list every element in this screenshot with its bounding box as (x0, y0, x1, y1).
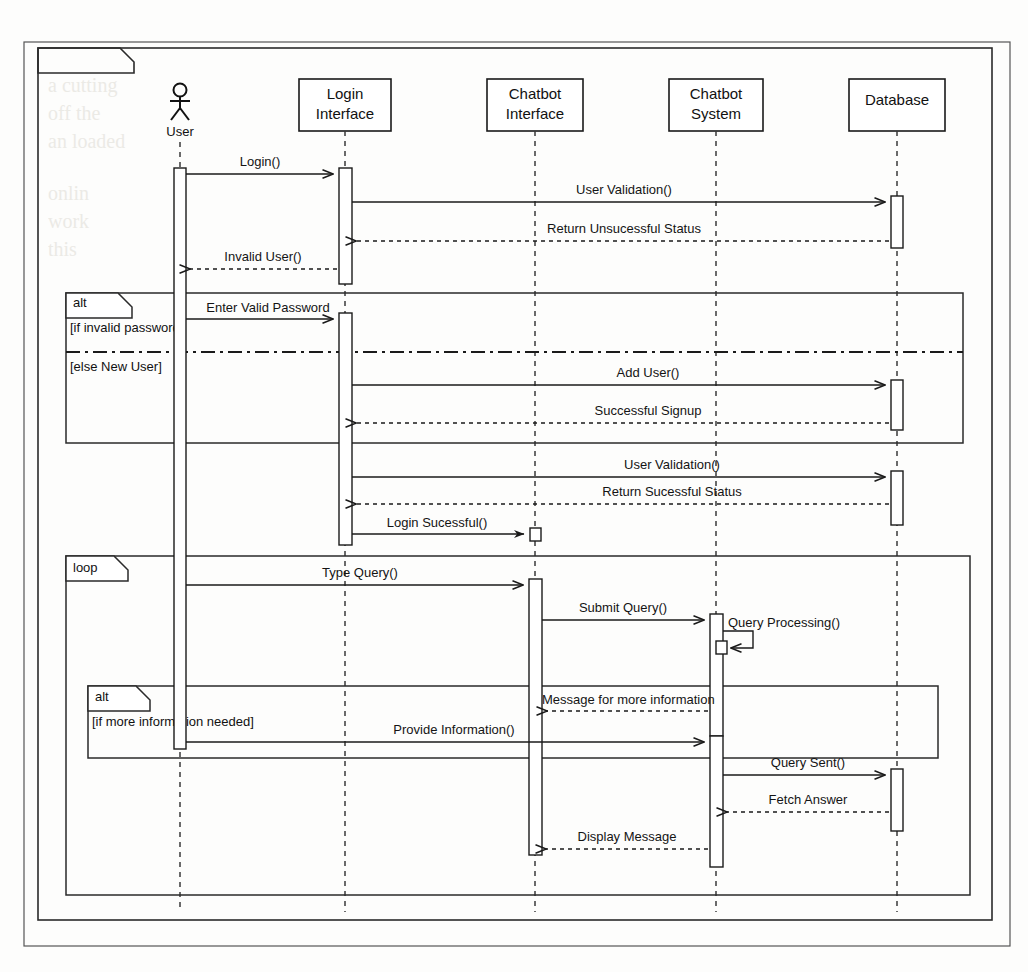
svg-text:onlin: onlin (48, 182, 89, 204)
message-label-display-message: Display Message (578, 829, 677, 844)
message-enter-valid-password[interactable]: Enter Valid Password (186, 300, 333, 319)
message-label-invalid-user: Invalid User() (224, 249, 301, 264)
message-label-return-unsuccessful-status: Return Unsucessful Status (547, 221, 701, 236)
svg-text:off the: off the (48, 102, 101, 124)
message-invalid-user[interactable]: Invalid User() (190, 249, 337, 269)
sequence-diagram-canvas: a cutting off the an loaded onlin work t… (0, 0, 1028, 972)
fragment-guard-else-new-user: [else New User] (70, 359, 162, 374)
svg-text:this: this (48, 238, 77, 260)
svg-text:an loaded: an loaded (48, 130, 125, 152)
message-label-return-successful-status: Return Sucessful Status (602, 484, 742, 499)
message-display-message[interactable]: Display Message (546, 829, 708, 849)
message-label-submit-query: Submit Query() (579, 600, 667, 615)
activation-database-4 (891, 769, 903, 831)
message-login[interactable]: Login() (186, 154, 333, 174)
participant-label-database: Database (865, 91, 929, 108)
participant-label-chatbot-sys-line2: System (691, 105, 741, 122)
message-label-enter-valid-password: Enter Valid Password (206, 300, 329, 315)
fragment-guard-if-more-information-needed: [if more information needed] (92, 714, 254, 729)
svg-text:a cutting: a cutting (48, 74, 117, 97)
message-more-information[interactable]: Message for more information (542, 692, 715, 711)
activation-chatbot-sys-1 (710, 614, 723, 736)
message-add-user[interactable]: Add User() (352, 365, 885, 385)
activation-database-1 (891, 196, 903, 248)
participant-label-login-line2: Interface (316, 105, 374, 122)
message-label-fetch-answer: Fetch Answer (769, 792, 848, 807)
activation-chatbot-ui-1 (529, 579, 542, 855)
message-return-successful-status[interactable]: Return Sucessful Status (356, 484, 889, 504)
message-label-user-validation-2: User Validation() (624, 457, 720, 472)
message-user-validation-2[interactable]: User Validation() (352, 457, 885, 477)
activation-login-1 (339, 168, 352, 284)
participant-label-user: User (166, 124, 194, 139)
message-successful-signup[interactable]: Successful Signup (356, 403, 889, 423)
svg-text:work: work (48, 210, 89, 232)
message-fetch-answer[interactable]: Fetch Answer (727, 792, 889, 812)
message-return-unsuccessful-status[interactable]: Return Unsucessful Status (356, 221, 889, 241)
page-bleed-text: a cutting off the an loaded onlin work t… (48, 74, 125, 260)
activation-login-2 (339, 313, 352, 545)
message-query-processing[interactable]: Query Processing() (723, 615, 840, 648)
fragment-operator-loop: loop (73, 560, 98, 575)
activation-chatbot-sys-self-stub (716, 641, 727, 654)
fragment-operator-alt-moreinfo: alt (95, 689, 109, 704)
fragment-guard-if-invalid-password: [if invalid password] (70, 320, 183, 335)
actor-icon (170, 84, 190, 121)
message-label-add-user: Add User() (617, 365, 680, 380)
participant-label-login-line1: Login (327, 85, 364, 102)
activation-chatbot-sys-2 (710, 736, 723, 867)
message-label-user-validation-1: User Validation() (576, 182, 672, 197)
participant-label-chatbot-ui-line2: Interface (506, 105, 564, 122)
sequence-diagram-page: a cutting off the an loaded onlin work t… (0, 0, 1028, 972)
message-submit-query[interactable]: Submit Query() (542, 600, 704, 620)
message-label-query-processing: Query Processing() (728, 615, 840, 630)
fragment-alt-login[interactable]: alt [if invalid password] [else New User… (66, 293, 963, 443)
message-user-validation-1[interactable]: User Validation() (352, 182, 885, 202)
message-label-login-successful: Login Sucessful() (387, 515, 487, 530)
page-border (24, 42, 1010, 946)
participant-label-chatbot-ui-line1: Chatbot (509, 85, 562, 102)
activation-user-1 (174, 168, 186, 749)
message-type-query[interactable]: Type Query() (186, 565, 523, 585)
message-label-more-information: Message for more information (542, 692, 715, 707)
activation-chatbot-ui-stub (530, 528, 541, 541)
activation-database-3 (891, 471, 903, 525)
message-login-successful[interactable]: Login Sucessful() (352, 515, 524, 534)
fragment-operator-alt-login: alt (73, 295, 87, 310)
message-label-type-query: Type Query() (322, 565, 398, 580)
message-provide-information[interactable]: Provide Information() (186, 722, 704, 742)
message-label-login: Login() (240, 154, 280, 169)
participant-label-chatbot-sys-line1: Chatbot (690, 85, 743, 102)
activation-database-2 (891, 380, 903, 430)
message-label-query-sent: Query Sent() (771, 755, 845, 770)
message-label-successful-signup: Successful Signup (595, 403, 702, 418)
message-label-provide-information: Provide Information() (393, 722, 514, 737)
